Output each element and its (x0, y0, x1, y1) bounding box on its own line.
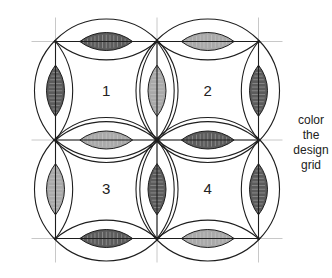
ring-arcs (34, 19, 279, 261)
caption-line-1: color (287, 113, 332, 128)
block-number-4: 4 (204, 180, 212, 197)
block-number-2: 2 (204, 82, 212, 99)
corner-point (155, 138, 158, 141)
caption-line-2: the (287, 128, 332, 143)
corner-point (54, 138, 57, 141)
instruction-caption: color the design grid (287, 113, 332, 173)
corner-point (257, 237, 260, 240)
block-number-1: 1 (102, 82, 110, 99)
caption-line-3: design (287, 143, 332, 158)
design-grid-diagram: 1234 (0, 0, 332, 278)
corner-point (155, 237, 158, 240)
corner-point (155, 40, 158, 43)
caption-line-4: grid (287, 158, 332, 173)
corner-point (257, 138, 260, 141)
block-number-3: 3 (102, 180, 110, 197)
corner-point (54, 237, 57, 240)
corner-point (257, 40, 260, 43)
corner-point (54, 40, 57, 43)
